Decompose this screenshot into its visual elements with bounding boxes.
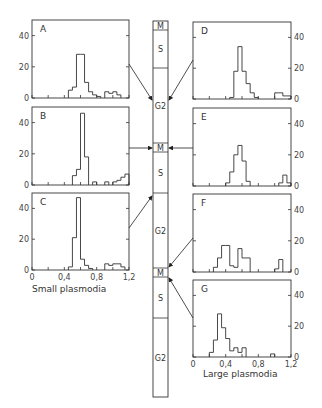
y-tick-label: 20	[294, 64, 304, 73]
histogram-panel-e: 02040E	[169, 108, 304, 191]
histogram-panel-g: 0204000,40,81,2G	[169, 278, 304, 369]
y-tick-label: 20	[19, 235, 29, 244]
histogram-bars	[72, 113, 129, 185]
y-tick-label: 40	[294, 120, 304, 129]
histogram-panel-c: 0204000,40,81,2C	[19, 193, 152, 282]
cell-cycle-phase-g2: G2	[155, 227, 166, 236]
y-tick-label: 20	[19, 150, 29, 159]
cell-cycle-phase-s: S	[158, 45, 163, 54]
large-plasmodia-caption: Large plasmodia	[203, 369, 278, 379]
y-tick-label: 0	[294, 268, 299, 277]
y-tick-label: 40	[294, 33, 304, 42]
histogram-panel-f: 02040F	[169, 194, 304, 277]
histogram-bars	[68, 54, 121, 98]
y-tick-label: 20	[19, 63, 29, 72]
cell-cycle-phase-s: S	[158, 169, 163, 178]
histogram-bars	[226, 145, 291, 186]
y-tick-label: 0	[24, 181, 29, 190]
cell-cycle-histogram-figure: 02040A02040B0204000,40,81,2C02040D02040E…	[0, 0, 322, 408]
x-tick-label: 1,2	[123, 273, 136, 282]
y-tick-label: 20	[294, 237, 304, 246]
arrow-icon	[169, 60, 193, 100]
x-tick-label: 0,4	[58, 273, 71, 282]
panel-letter: D	[201, 26, 208, 36]
panel-letter: E	[201, 112, 207, 122]
histogram-panel-d: 02040D	[169, 22, 304, 104]
y-tick-label: 40	[19, 32, 29, 41]
y-tick-label: 40	[19, 204, 29, 213]
cell-cycle-phase-g2: G2	[155, 354, 166, 363]
y-tick-label: 20	[294, 151, 304, 160]
histogram-panel-a: 02040A	[19, 20, 152, 103]
small-plasmodia-caption: Small plasmodia	[32, 284, 106, 294]
arrow-icon	[129, 196, 152, 228]
y-tick-label: 40	[294, 206, 304, 215]
panel-letter: B	[40, 111, 46, 121]
cell-cycle-phase-m: M	[157, 269, 164, 278]
histogram-bars	[230, 47, 291, 99]
y-tick-label: 0	[24, 94, 29, 103]
histogram-panel-b: 02040B	[19, 107, 152, 190]
panel-letter: A	[40, 24, 47, 34]
histogram-bars	[68, 198, 125, 270]
cell-cycle-phase-m: M	[157, 22, 164, 31]
cell-cycle-phase-g2: G2	[155, 102, 166, 111]
x-tick-label: 0	[29, 273, 34, 282]
cell-cycle-column: MSG2MSG2MSG2	[153, 21, 168, 397]
arrow-icon	[169, 238, 193, 267]
x-tick-label: 0	[190, 360, 195, 369]
panel-letter: F	[201, 198, 206, 208]
x-tick-label: 0,8	[90, 273, 103, 282]
y-tick-label: 20	[294, 322, 304, 331]
panel-letter: C	[40, 197, 46, 207]
histogram-panels: 02040A02040B0204000,40,81,2C02040D02040E…	[19, 20, 304, 369]
cell-cycle-phase-m: M	[157, 144, 164, 153]
x-tick-label: 0,8	[252, 360, 265, 369]
y-tick-label: 0	[294, 182, 299, 191]
y-tick-label: 40	[19, 119, 29, 128]
y-tick-label: 0	[24, 266, 29, 275]
cell-cycle-phase-s: S	[158, 294, 163, 303]
y-tick-label: 0	[294, 95, 299, 104]
histogram-bars	[213, 245, 282, 272]
arrow-icon	[129, 64, 152, 100]
x-tick-label: 1,2	[285, 360, 298, 369]
histogram-bars	[209, 314, 274, 357]
panel-letter: G	[201, 284, 208, 294]
arrow-icon	[169, 278, 193, 318]
y-tick-label: 40	[294, 291, 304, 300]
x-tick-label: 0,4	[219, 360, 232, 369]
